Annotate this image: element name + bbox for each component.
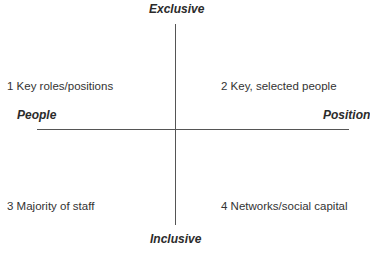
quadrant-label: Majority of staff [17,200,95,212]
quadrant-label: Key roles/positions [17,80,114,92]
quadrant-number: 4 [221,200,227,212]
axis-label-top: Exclusive [149,2,204,16]
quadrant-number: 2 [221,80,227,92]
axis-label-left: People [17,108,56,122]
vertical-axis-line [175,24,176,225]
axis-label-bottom: Inclusive [150,232,201,246]
quadrant-1: 1 Key roles/positions [7,80,113,92]
horizontal-axis-line [37,129,349,130]
axis-label-right: Position [323,108,370,122]
quadrant-label: Key, selected people [231,80,337,92]
quadrant-label: Networks/social capital [231,200,348,212]
quadrant-number: 1 [7,80,13,92]
quadrant-4: 4 Networks/social capital [221,200,348,212]
quadrant-number: 3 [7,200,13,212]
quadrant-2: 2 Key, selected people [221,80,337,92]
quadrant-3: 3 Majority of staff [7,200,94,212]
